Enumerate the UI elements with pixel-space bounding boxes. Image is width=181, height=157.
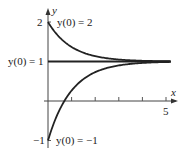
- x-axis-label: x: [171, 87, 176, 98]
- x-ticks: [48, 22, 166, 141]
- annotation-y0-2: y(0) = 2: [57, 17, 93, 28]
- annotation-y0-1: y(0) = 1: [8, 56, 44, 67]
- y-tick-2: 2: [37, 17, 43, 28]
- x-axis-arrow-icon: [171, 99, 178, 104]
- solution-curves: [48, 22, 171, 141]
- y-axis-arrow-icon: [46, 8, 51, 15]
- annotation-y0-neg1: y(0) = −1: [56, 135, 98, 146]
- y-tick-neg1: −1: [33, 135, 45, 146]
- y-axis-label: y: [52, 5, 57, 16]
- x-tick-5: 5: [163, 106, 169, 117]
